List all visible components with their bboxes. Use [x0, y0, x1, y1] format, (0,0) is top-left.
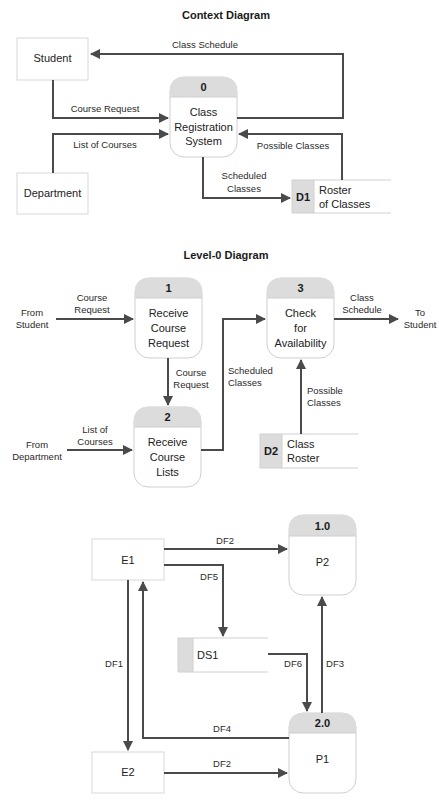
flow-df6-ds1-p1-label: DF6: [284, 658, 302, 669]
flow-df3-p1-p2: DF3: [322, 597, 344, 713]
flow-df1-e1-e2: DF1: [105, 580, 128, 750]
context-diagram-title: Context Diagram: [182, 9, 270, 21]
entity-department[interactable]: Department: [17, 173, 88, 214]
flow-course-request-mid: Course Request: [168, 358, 209, 405]
entity-e2[interactable]: E2: [92, 752, 164, 793]
process-1-0-id: 1.0: [315, 520, 330, 532]
flow-df1-e1-e2-label: DF1: [105, 658, 123, 669]
process-3[interactable]: 3 Check for Availability: [267, 278, 334, 358]
datastore-ds1-label: DS1: [197, 649, 218, 661]
flow-list-of-courses-label: List of Courses: [73, 139, 137, 150]
flow-scheduled-classes: Scheduled Classes: [201, 319, 273, 450]
flow-possible-classes: Possible Classes: [301, 360, 343, 434]
source-from-department-line2: Department: [12, 451, 62, 462]
flow-course-request-mid-line2: Request: [173, 379, 209, 390]
datastore-d2-line2: Roster: [287, 452, 320, 464]
sink-to-student-line1: To: [415, 307, 425, 318]
process-1-line2: Course: [151, 322, 186, 334]
entity-e1[interactable]: E1: [92, 539, 164, 580]
process-0-line2: Registration: [174, 121, 233, 133]
process-1-0[interactable]: 1.0 P2: [289, 515, 356, 595]
entity-student-label: Student: [34, 52, 72, 64]
generic-diagram: E1 E2 1.0 P2 2.0 P1: [92, 515, 356, 793]
level0-diagram-title: Level-0 Diagram: [184, 249, 269, 261]
process-2-id: 2: [164, 411, 170, 423]
context-diagram: Context Diagram Student Department 0 Cla…: [17, 9, 391, 214]
process-2-0-id: 2.0: [315, 717, 330, 729]
process-0-line3: System: [185, 135, 222, 147]
process-1-id: 1: [165, 282, 171, 294]
flow-possible-classes-line2: Classes: [307, 397, 341, 408]
source-from-student-line2: Student: [16, 319, 49, 330]
flow-df2-e1-p2-label: DF2: [216, 535, 234, 546]
flow-list-of-courses-line1: List of: [82, 424, 108, 435]
flow-class-schedule-label: Class Schedule: [172, 39, 238, 50]
process-2-line3: Lists: [156, 466, 179, 478]
source-from-department-line1: From: [26, 439, 48, 450]
flow-possible-classes-label: Possible Classes: [257, 140, 330, 151]
datastore-ds1[interactable]: DS1: [178, 638, 268, 672]
flow-df4-p1-e1-label: DF4: [213, 723, 231, 734]
process-0-id: 0: [200, 81, 206, 93]
sink-to-student-line2: Student: [404, 319, 437, 330]
flow-df6-ds1-p1: DF6: [268, 654, 307, 711]
flow-course-request-in-line1: Course: [77, 292, 108, 303]
datastore-d2-line1: Class: [287, 438, 315, 450]
entity-e1-label: E1: [121, 554, 134, 566]
flow-df2-e2-p1-label: DF2: [213, 758, 231, 769]
flow-course-request-mid-line1: Course: [176, 367, 207, 378]
process-1-0-name: P2: [316, 556, 329, 568]
flow-scheduled-classes-line2: Classes: [227, 183, 261, 194]
process-2-line2: Course: [150, 451, 185, 463]
process-2-0[interactable]: 2.0 P1: [289, 713, 356, 793]
datastore-d1-line2: of Classes: [319, 198, 371, 210]
flow-possible-classes-line1: Possible: [307, 385, 343, 396]
flow-df2-e1-p2: DF2: [164, 535, 287, 549]
datastore-d1-line1: Roster: [319, 184, 352, 196]
process-1-line3: Request: [148, 337, 189, 349]
datastore-d2-id: D2: [264, 445, 278, 457]
flow-course-request-in: Course Request: [56, 292, 133, 319]
flow-class-schedule: Class Schedule: [334, 292, 398, 319]
flow-course-request-in-line2: Request: [74, 304, 110, 315]
flow-class-schedule-line1: Class: [350, 292, 374, 303]
flow-scheduled-classes-line1: Scheduled: [228, 365, 273, 376]
process-0[interactable]: 0 Class Registration System: [170, 77, 237, 157]
source-from-student-line1: From: [21, 307, 43, 318]
flow-list-of-courses: List of Courses: [67, 424, 132, 450]
process-2[interactable]: 2 Receive Course Lists: [134, 407, 201, 487]
process-0-line1: Class: [190, 106, 218, 118]
datastore-d1[interactable]: D1 Roster of Classes: [292, 180, 391, 213]
process-1-line1: Receive: [149, 307, 189, 319]
datastore-d1-id: D1: [296, 191, 310, 203]
dfd-canvas: Context Diagram Student Department 0 Cla…: [0, 0, 439, 812]
entity-e2-label: E2: [121, 766, 134, 778]
process-1[interactable]: 1 Receive Course Request: [135, 278, 202, 358]
datastore-d2[interactable]: D2 Class Roster: [260, 434, 358, 468]
flow-scheduled-classes-line1: Scheduled: [222, 170, 267, 181]
flow-class-schedule-line2: Schedule: [342, 304, 382, 315]
process-3-line1: Check: [285, 307, 317, 319]
flow-course-request: Course Request: [53, 80, 168, 118]
flow-df3-p1-p2-label: DF3: [326, 658, 344, 669]
flow-scheduled-classes: Scheduled Classes: [203, 157, 290, 198]
flow-df2-e2-p1: DF2: [164, 758, 287, 773]
flow-course-request-label: Course Request: [71, 103, 140, 114]
flow-df5-e1-ds1-label: DF5: [200, 571, 218, 582]
flow-list-of-courses: List of Courses: [53, 134, 168, 173]
process-2-0-name: P1: [316, 753, 329, 765]
entity-student[interactable]: Student: [17, 38, 88, 80]
flow-scheduled-classes-line2: Classes: [228, 377, 262, 388]
level0-diagram: Level-0 Diagram 1 Receive Course Request…: [12, 249, 437, 487]
process-3-id: 3: [297, 282, 303, 294]
flow-df5-e1-ds1: DF5: [164, 565, 223, 636]
entity-department-label: Department: [24, 187, 81, 199]
process-2-line1: Receive: [148, 436, 188, 448]
process-3-line3: Availability: [275, 337, 327, 349]
flow-list-of-courses-line2: Courses: [77, 436, 113, 447]
process-3-line2: for: [294, 322, 307, 334]
